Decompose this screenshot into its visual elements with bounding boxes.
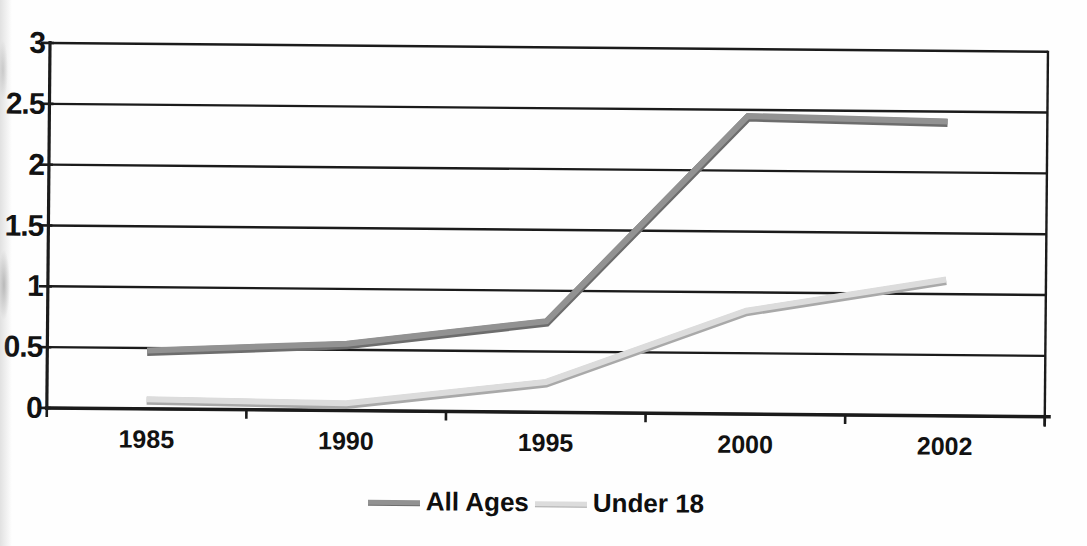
line-chart-plot	[0, 0, 1087, 546]
x-tick-label: 1995	[480, 428, 610, 458]
gridline	[50, 43, 1048, 52]
y-tick-label: 2	[0, 147, 44, 181]
plot-right-border	[1045, 51, 1048, 427]
x-tick-label: 1990	[281, 426, 411, 456]
y-axis-line	[47, 41, 50, 410]
y-tick-label: 1	[0, 269, 43, 303]
x-tick-label: 2002	[880, 431, 1010, 461]
line-chart-figure: 00.511.522.53 19851990199520002002 All A…	[0, 0, 1087, 546]
legend-label-all-ages: All Ages	[426, 486, 529, 518]
x-tick-label: 1985	[81, 424, 211, 454]
y-tick-label: 1.5	[0, 208, 44, 242]
y-tick-label: 0.5	[0, 330, 42, 364]
gridline	[48, 225, 1046, 234]
series-line-edge	[147, 274, 946, 410]
series-line	[147, 111, 947, 358]
legend-line-all-ages	[368, 499, 420, 504]
gridline	[49, 104, 1047, 113]
y-tick-label: 2.5	[0, 86, 45, 120]
legend-line-under-18	[535, 501, 587, 506]
y-tick-label: 0	[0, 391, 42, 425]
y-tick-label: 3	[0, 26, 45, 60]
x-axis-line	[45, 408, 1051, 417]
x-tick-label: 2000	[680, 430, 810, 460]
legend-label-under-18: Under 18	[593, 487, 705, 519]
gridline	[49, 165, 1047, 174]
scanned-chart-page: 00.511.522.53 19851990199520002002 All A…	[0, 0, 1087, 546]
